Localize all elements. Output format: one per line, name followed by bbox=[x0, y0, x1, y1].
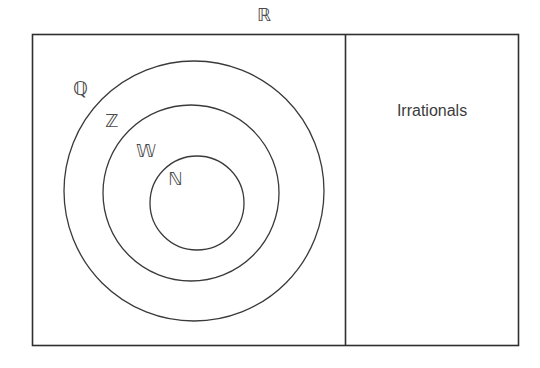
venn-diagram-svg bbox=[0, 0, 540, 368]
number-sets-diagram: ℝ ℚ ℤ 𝕎 ℕ Irrationals bbox=[0, 0, 540, 368]
universe-rectangle bbox=[33, 35, 519, 346]
